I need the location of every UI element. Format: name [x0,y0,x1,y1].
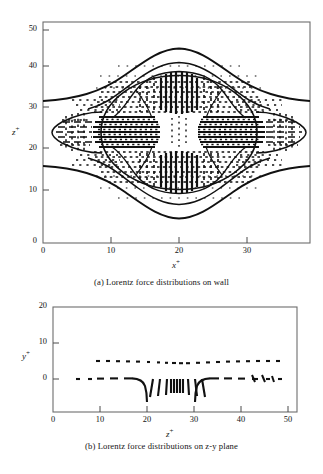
panel-a-plot [0,0,323,270]
panel-b-caption: (b) Lorentz force distributions on z-y p… [0,441,323,451]
figure-container: z+ 50 40 30 20 10 0 0 10 20 30 x+ [0,0,323,474]
panel-b-plot [0,295,323,440]
panel-b-frame [53,307,297,412]
panel-b: y+ 20 10 0 0 10 20 30 40 50 z+ [0,295,323,474]
panel-a: z+ 50 40 30 20 10 0 0 10 20 30 x+ [0,0,323,292]
panel-a-caption: (a) Lorentz force distributions on wall [0,277,323,287]
